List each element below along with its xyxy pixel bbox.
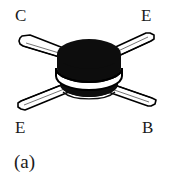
figure-caption: (a) [14,152,35,172]
pin-label-emitter-lower: E [15,119,25,136]
pin-label-base: B [142,119,153,136]
transistor-package-figure: C E E B (a) [0,0,178,179]
pin-label-emitter-upper: E [141,7,151,24]
pin-label-collector: C [15,7,26,24]
